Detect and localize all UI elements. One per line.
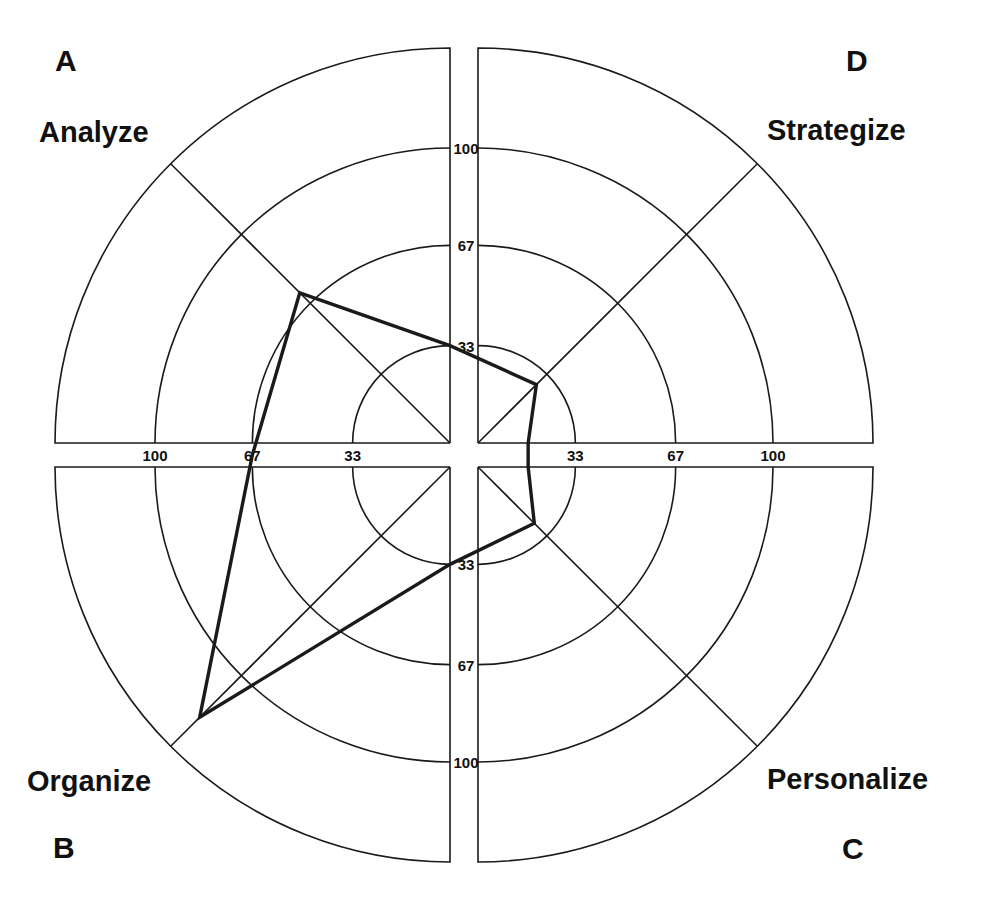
quadrant-name-analyze: Analyze xyxy=(39,116,149,149)
tick-top-100: 100 xyxy=(453,140,478,157)
quadrant-name-personalize: Personalize xyxy=(767,763,928,796)
tick-left-100: 100 xyxy=(142,447,167,464)
diagonal-axis xyxy=(478,164,757,443)
diagonal-axis xyxy=(171,164,450,443)
tick-right-33: 33 xyxy=(567,447,584,464)
tick-bottom-67: 67 xyxy=(458,657,475,674)
diagonal-axis xyxy=(478,467,757,746)
tick-left-33: 33 xyxy=(344,447,361,464)
tick-right-67: 67 xyxy=(667,447,684,464)
quadrant-analyze xyxy=(55,48,450,443)
quadrant-letter-c: C xyxy=(842,832,864,866)
tick-right-100: 100 xyxy=(760,447,785,464)
quadrant-name-organize: Organize xyxy=(27,765,151,798)
quadrant-letter-d: D xyxy=(846,44,868,78)
quadrant-personalize xyxy=(478,467,873,862)
quadrant-organize xyxy=(55,467,450,862)
quadrant-letter-b: B xyxy=(53,831,75,865)
tick-top-67: 67 xyxy=(458,237,475,254)
quadrant-letter-a: A xyxy=(55,44,77,78)
quadrant-name-strategize: Strategize xyxy=(767,114,906,147)
profile-polygon xyxy=(200,293,537,718)
tick-bottom-100: 100 xyxy=(453,754,478,771)
diagonal-axis xyxy=(171,467,450,746)
